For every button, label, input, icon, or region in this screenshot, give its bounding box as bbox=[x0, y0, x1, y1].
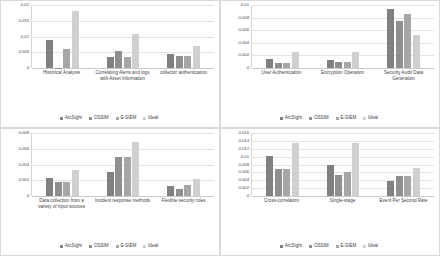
legend-4: ArcSightOSSIME-SIEMIdeal bbox=[224, 242, 434, 253]
legend-swatch-icon bbox=[116, 245, 119, 248]
y-tick-label: 0.02 bbox=[21, 3, 29, 7]
legend-swatch-icon bbox=[336, 117, 339, 120]
bar-group bbox=[32, 5, 93, 68]
legend-item-ideal[interactable]: Ideal bbox=[363, 244, 378, 249]
chart-panel-1: 00.0050.010.0150.02Historical AnalysisCo… bbox=[0, 0, 220, 128]
bar bbox=[184, 56, 191, 68]
legend-item-ossim[interactable]: OSSIM bbox=[309, 116, 329, 121]
legend-label: E-SIEM bbox=[120, 116, 136, 121]
y-tick-label: 0.005 bbox=[19, 50, 30, 54]
bar bbox=[344, 62, 351, 68]
plot-canvas-3 bbox=[31, 133, 214, 196]
x-tick-label: Historical Analysis bbox=[31, 70, 92, 81]
plot-area-4: 00.0020.0040.0060.0080.010.0120.0140.016 bbox=[224, 133, 434, 196]
figure-grid: 00.0050.010.0150.02Historical AnalysisCo… bbox=[0, 0, 440, 256]
bar bbox=[124, 57, 131, 68]
x-tick-label: Incident response methods bbox=[92, 198, 153, 209]
y-tick-label: 0 bbox=[247, 194, 249, 198]
legend-item-e-siem[interactable]: E-SIEM bbox=[336, 116, 357, 121]
bar-group bbox=[93, 133, 154, 196]
bar bbox=[193, 46, 200, 68]
legend-item-e-siem[interactable]: E-SIEM bbox=[116, 244, 137, 249]
plot-area-2: 00.0020.0040.0060.0080.01 bbox=[224, 5, 434, 68]
legend-item-ideal[interactable]: Ideal bbox=[143, 116, 158, 121]
legend-item-arcsight[interactable]: ArcSight bbox=[280, 116, 302, 121]
x-tick-label: Cross-correlation bbox=[251, 198, 312, 204]
bar bbox=[266, 59, 273, 68]
y-tick-label: 0.01 bbox=[241, 154, 249, 158]
y-tick-label: 0.01 bbox=[241, 3, 249, 7]
legend-item-e-siem[interactable]: E-SIEM bbox=[116, 116, 137, 121]
bar bbox=[327, 165, 334, 196]
legend-label: E-SIEM bbox=[120, 244, 136, 249]
bar bbox=[176, 189, 183, 196]
bar bbox=[413, 35, 420, 68]
chart-panel-2: 00.0020.0040.0060.0080.01User Authentica… bbox=[220, 0, 440, 128]
bar bbox=[396, 176, 403, 196]
y-tick-label: 0.004 bbox=[239, 178, 250, 182]
legend-item-arcsight[interactable]: ArcSight bbox=[60, 116, 82, 121]
legend-label: ArcSight bbox=[65, 244, 82, 249]
gridline bbox=[252, 68, 434, 69]
legend-swatch-icon bbox=[336, 245, 339, 248]
bar bbox=[396, 21, 403, 68]
x-axis-3: Data collection from a variety of input … bbox=[31, 198, 214, 209]
legend-item-ideal[interactable]: Ideal bbox=[143, 244, 158, 249]
gridline bbox=[32, 196, 214, 197]
y-tick-label: 0 bbox=[27, 194, 29, 198]
legend-label: ArcSight bbox=[285, 244, 302, 249]
y-tick-label: 0.002 bbox=[239, 186, 250, 190]
bar bbox=[72, 170, 79, 196]
bar bbox=[387, 9, 394, 68]
legend-label: OSSIM bbox=[314, 244, 329, 249]
legend-item-e-siem[interactable]: E-SIEM bbox=[336, 244, 357, 249]
bar-group bbox=[373, 133, 434, 196]
bar-group bbox=[32, 133, 93, 196]
x-tick-label: Single-stage bbox=[312, 198, 373, 204]
bar bbox=[132, 142, 139, 196]
bar bbox=[275, 63, 282, 68]
bar bbox=[404, 176, 411, 196]
bar bbox=[404, 14, 411, 68]
bar bbox=[387, 181, 394, 196]
bar bbox=[132, 34, 139, 68]
bar bbox=[55, 68, 62, 69]
y-tick-label: 0.016 bbox=[239, 131, 250, 135]
legend-label: OSSIM bbox=[94, 116, 109, 121]
x-tick-label: collector authentication bbox=[153, 70, 214, 81]
x-tick-label: Correlating Alerts and logs with Asset I… bbox=[92, 70, 153, 81]
bar-groups bbox=[32, 133, 214, 196]
legend-swatch-icon bbox=[143, 245, 146, 248]
y-tick-label: 0.006 bbox=[239, 170, 250, 174]
legend-swatch-icon bbox=[280, 245, 283, 248]
legend-item-ossim[interactable]: OSSIM bbox=[89, 244, 109, 249]
y-axis-4: 00.0020.0040.0060.0080.010.0120.0140.016 bbox=[224, 133, 251, 196]
bar-group bbox=[153, 5, 214, 68]
bar bbox=[124, 157, 131, 196]
legend-item-arcsight[interactable]: ArcSight bbox=[60, 244, 82, 249]
bar bbox=[115, 157, 122, 196]
y-tick-label: 0.008 bbox=[239, 162, 250, 166]
legend-item-ideal[interactable]: Ideal bbox=[363, 116, 378, 121]
bar-groups bbox=[32, 5, 214, 68]
legend-2: ArcSightOSSIME-SIEMIdeal bbox=[224, 114, 434, 125]
bar bbox=[72, 11, 79, 68]
bar bbox=[327, 60, 334, 68]
legend-item-ossim[interactable]: OSSIM bbox=[89, 116, 109, 121]
y-tick-label: 0.015 bbox=[19, 19, 30, 23]
legend-label: E-SIEM bbox=[340, 116, 356, 121]
legend-label: Ideal bbox=[148, 116, 158, 121]
y-tick-label: 0.002 bbox=[239, 53, 250, 57]
bar-group bbox=[313, 133, 374, 196]
legend-label: Ideal bbox=[368, 244, 378, 249]
bar bbox=[167, 54, 174, 68]
legend-swatch-icon bbox=[143, 117, 146, 120]
legend-swatch-icon bbox=[363, 245, 366, 248]
legend-item-ossim[interactable]: OSSIM bbox=[309, 244, 329, 249]
bar-groups bbox=[252, 133, 434, 196]
x-tick-label: Encryption Operation bbox=[312, 70, 373, 81]
bar bbox=[292, 143, 299, 196]
legend-swatch-icon bbox=[89, 117, 92, 120]
legend-item-arcsight[interactable]: ArcSight bbox=[280, 244, 302, 249]
bar bbox=[283, 63, 290, 68]
